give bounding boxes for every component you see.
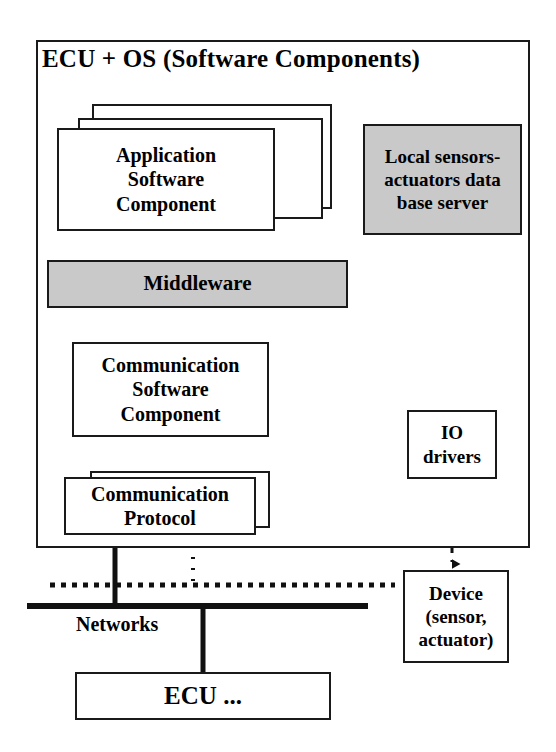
- device-sensor-actuator-label: Device(sensor,actuator): [405, 582, 507, 652]
- communication-software-component[interactable]: CommunicationSoftwareComponent: [72, 342, 269, 437]
- ecu-more-label: ECU ...: [77, 681, 329, 712]
- diagram-canvas: ECU + OS (Software Components) Applicati…: [0, 0, 556, 752]
- middleware[interactable]: Middleware: [47, 260, 348, 308]
- ecu-more[interactable]: ECU ...: [75, 672, 331, 720]
- device-sensor-actuator[interactable]: Device(sensor,actuator): [403, 570, 509, 663]
- communication-protocol[interactable]: CommunicationProtocol: [64, 477, 256, 535]
- local-sensors-actuators-database-server-label: Local sensors-actuators database server: [365, 145, 520, 215]
- middleware-label: Middleware: [49, 271, 346, 297]
- io-drivers-label: IOdrivers: [409, 421, 495, 467]
- local-sensors-actuators-database-server[interactable]: Local sensors-actuators database server: [363, 124, 522, 235]
- networks-label: Networks: [76, 613, 158, 636]
- io-drivers[interactable]: IOdrivers: [407, 410, 497, 479]
- communication-protocol-label: CommunicationProtocol: [66, 482, 254, 531]
- communication-software-component-label: CommunicationSoftwareComponent: [74, 353, 267, 426]
- application-software-component[interactable]: ApplicationSoftwareComponent: [57, 128, 275, 231]
- application-software-component-label: ApplicationSoftwareComponent: [59, 143, 273, 216]
- ecu-os-title: ECU + OS (Software Components): [42, 45, 502, 73]
